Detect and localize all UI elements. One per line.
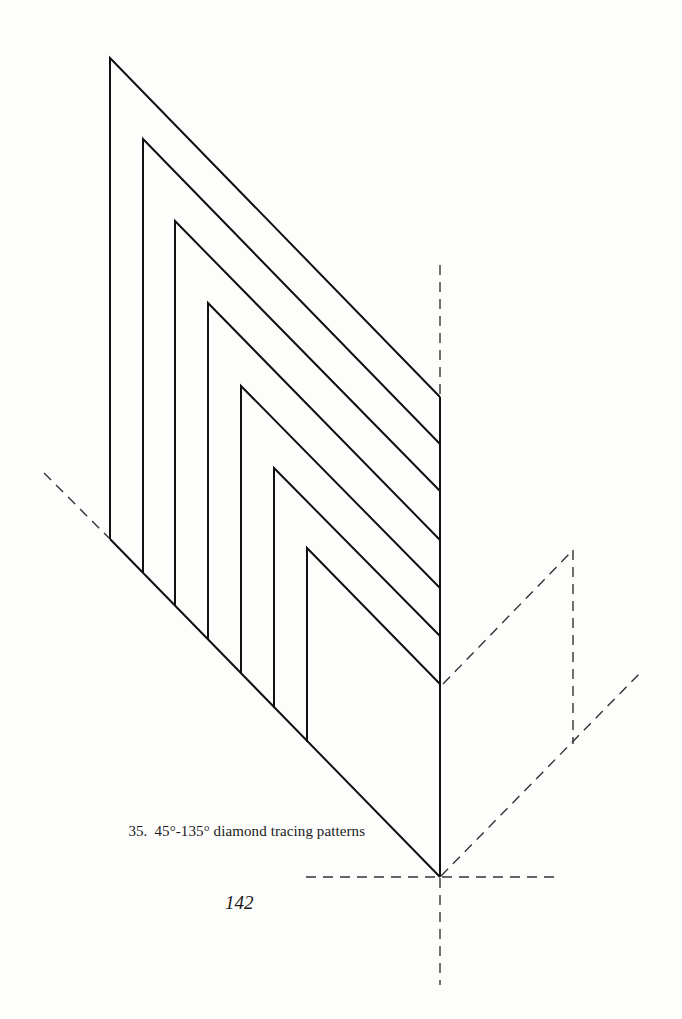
construction-lines — [44, 265, 643, 985]
lower-right-diagonal-dashed-line — [441, 670, 643, 876]
pattern-7 — [307, 548, 440, 742]
diamond-tracing-diagram — [0, 0, 682, 1019]
pattern-1 — [110, 58, 440, 539]
upper-right-diagonal-dashed-line — [443, 550, 573, 684]
figure-caption-text: 45°-135° diamond tracing patterns — [154, 823, 365, 839]
left-diagonal-dashed-line — [44, 473, 109, 538]
figure-number: 35. — [128, 823, 147, 839]
nested-patterns — [110, 58, 440, 742]
pattern-2 — [143, 139, 440, 572]
pattern-5 — [241, 386, 440, 674]
figure-caption: 35.45°-135° diamond tracing patterns — [113, 806, 365, 857]
book-page: 35.45°-135° diamond tracing patterns 142 — [0, 0, 682, 1019]
page-number: 142 — [225, 892, 254, 914]
